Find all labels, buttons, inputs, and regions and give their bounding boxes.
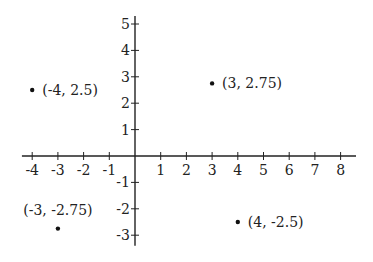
y-tick-label: -1 — [116, 174, 130, 190]
data-points: (-4, 2.5)(3, 2.75)(-3, -2.75)(4, -2.5) — [23, 75, 303, 230]
data-point-label: (-4, 2.5) — [42, 82, 98, 98]
x-tick-label: -1 — [102, 162, 116, 178]
y-tick-label: 1 — [121, 122, 130, 138]
data-point-marker — [236, 220, 240, 224]
data-point-label: (4, -2.5) — [248, 214, 304, 230]
x-tick-label: 8 — [336, 162, 345, 178]
x-tick-label: 4 — [233, 162, 242, 178]
data-point-marker — [56, 226, 60, 230]
x-tick-label: -3 — [51, 162, 65, 178]
x-tick-label: -2 — [77, 162, 91, 178]
x-tick-label: 2 — [182, 162, 191, 178]
y-tick-label: 3 — [121, 69, 130, 85]
data-point-label: (3, 2.75) — [222, 75, 282, 91]
data-point-label: (-3, -2.75) — [23, 202, 92, 218]
y-axis-ticks: -3-2-112345 — [116, 16, 139, 243]
coordinate-plane: -4-3-2-112345678 -3-2-112345 (-4, 2.5)(3… — [0, 0, 373, 262]
x-tick-label: 6 — [285, 162, 294, 178]
x-tick-label: 1 — [156, 162, 165, 178]
data-point-marker — [30, 88, 34, 92]
y-tick-label: -3 — [116, 227, 130, 243]
x-tick-label: 7 — [310, 162, 319, 178]
data-point-marker — [210, 81, 214, 85]
x-tick-label: 5 — [259, 162, 268, 178]
y-tick-label: -2 — [116, 201, 130, 217]
x-tick-label: 3 — [208, 162, 217, 178]
x-tick-label: -4 — [25, 162, 39, 178]
y-tick-label: 4 — [121, 42, 130, 58]
y-tick-label: 2 — [121, 95, 130, 111]
y-tick-label: 5 — [121, 16, 130, 32]
